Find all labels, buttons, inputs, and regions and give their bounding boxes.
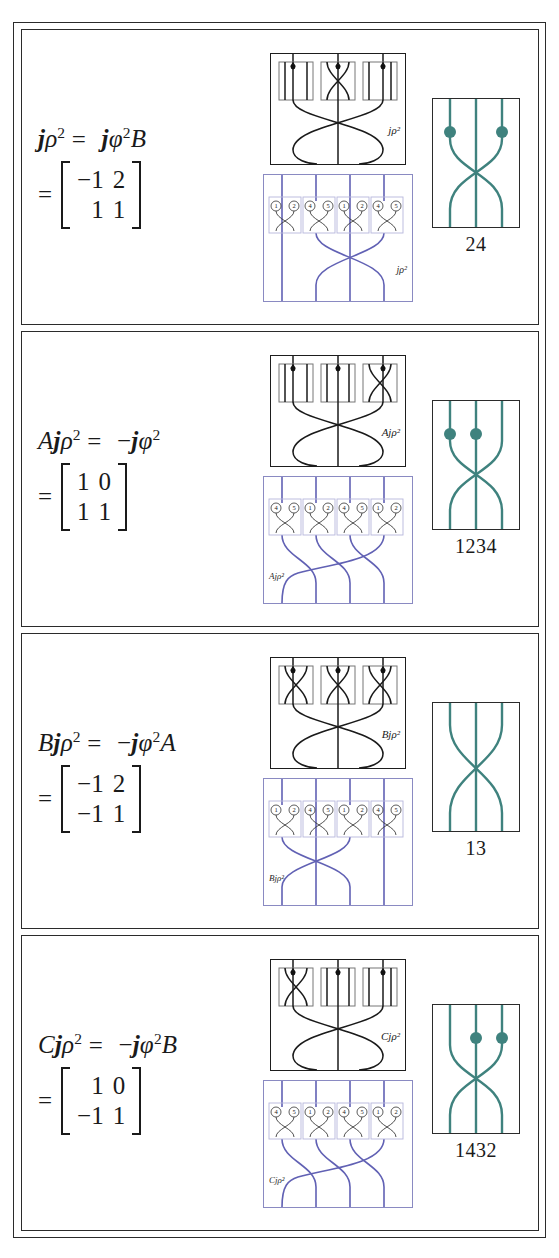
- blue-tangle-label-3: Bjρ²: [269, 873, 284, 883]
- matrix-1: = −1 2 1 1: [38, 161, 141, 229]
- matrix-cell: 1: [77, 468, 90, 496]
- panel-1: jρ2 = jφ2B = −1 2 1 1: [21, 29, 539, 325]
- black-tangle-label-4: Cjρ²: [381, 1030, 400, 1042]
- blue-tangle-label-4: Cjρ²: [269, 1175, 285, 1185]
- matrix-cell: −1: [77, 800, 104, 828]
- bead-icon: [496, 1032, 508, 1044]
- diagram-column-4: Cjρ²: [254, 959, 422, 1208]
- formula-block-1: jρ2 = jφ2B = −1 2 1 1: [22, 125, 254, 229]
- matrix-cell: 1: [113, 800, 126, 828]
- gate-number: 1: [342, 202, 345, 209]
- gate-number: 2: [360, 806, 363, 813]
- bracket-right: [118, 463, 127, 531]
- figure-page: jρ2 = jφ2B = −1 2 1 1: [0, 0, 559, 1258]
- gate-number: 5: [292, 1108, 295, 1115]
- bracket-left: [61, 463, 70, 531]
- matrix-cell: 0: [99, 468, 112, 496]
- equation-1: jρ2 = jφ2B: [38, 125, 146, 153]
- equation-4: Cjρ2 = −jφ2B: [38, 1031, 177, 1059]
- gate-number: 2: [326, 1108, 329, 1115]
- panel-4: Cjρ2 = −jφ2B = 1 0 −1 1: [21, 935, 539, 1231]
- gate-number: 5: [360, 1108, 363, 1115]
- gate-number: 2: [394, 504, 397, 511]
- bracket-right: [132, 161, 141, 229]
- gate-number: 1: [376, 1108, 379, 1115]
- matrix-cell: 1: [77, 498, 90, 526]
- gate-number: 5: [326, 806, 329, 813]
- knot-diagram-2: [432, 400, 520, 530]
- blue-tangle-diagram-2: 45 12 45 12 Ajρ²: [263, 476, 413, 604]
- black-tangle-label-2: Ajρ²: [382, 426, 400, 438]
- gate-number: 2: [326, 504, 329, 511]
- matrix-cell: 0: [113, 1072, 126, 1100]
- bead-icon: [444, 126, 456, 138]
- equation-2: Ajρ2 = −jφ2: [38, 427, 160, 455]
- knot-column-1: 24: [422, 98, 538, 256]
- knot-diagram-3: [432, 702, 520, 832]
- matrix-cell: 2: [113, 770, 126, 798]
- bracket-right: [132, 1067, 141, 1135]
- blue-tangle-diagram-1: 12 45 12 45 jρ²: [263, 174, 413, 302]
- black-tangle-diagram-3: Bjρ²: [270, 657, 406, 769]
- gate-number: 1: [342, 806, 345, 813]
- formula-block-2: Ajρ2 = −jφ2 = 1 0 1 1: [22, 427, 254, 531]
- black-tangle-diagram-1: jρ²: [270, 53, 406, 165]
- knot-caption-3: 13: [466, 837, 487, 860]
- gate-number: 1: [308, 504, 311, 511]
- black-tangle-label-3: Bjρ²: [382, 728, 400, 740]
- blue-tangle-label-1: jρ²: [396, 264, 407, 275]
- matrix-3: = −1 2 −1 1: [38, 765, 141, 833]
- gate-number: 5: [394, 202, 397, 209]
- gate-number: 5: [394, 806, 397, 813]
- knot-column-4: 1432: [422, 1004, 538, 1162]
- gate-number: 1: [274, 806, 277, 813]
- gate-number: 5: [360, 504, 363, 511]
- knot-caption-2: 1234: [455, 535, 497, 558]
- knot-diagram-4: [432, 1004, 520, 1134]
- gate-number: 2: [360, 202, 363, 209]
- matrix-cell: 1: [99, 498, 112, 526]
- gate-number: 1: [274, 202, 277, 209]
- matrix-cell: −1: [77, 1102, 104, 1130]
- gate-number: 5: [326, 202, 329, 209]
- gate-number: 5: [292, 504, 295, 511]
- matrix-cell: 1: [113, 1102, 126, 1130]
- panel-stack: jρ2 = jφ2B = −1 2 1 1: [21, 29, 539, 1231]
- bead-icon: [470, 1032, 482, 1044]
- diagram-column-3: Bjρ²: [254, 657, 422, 906]
- bracket-right: [132, 765, 141, 833]
- panel-3: Bjρ2 = −jφ2A = −1 2 −1 1: [21, 633, 539, 929]
- panel-2: Ajρ2 = −jφ2 = 1 0 1 1: [21, 331, 539, 627]
- blue-tangle-diagram-3: 12 45 12 45 Bjρ²: [263, 778, 413, 906]
- gate-number: 2: [292, 806, 295, 813]
- matrix-4: = 1 0 −1 1: [38, 1067, 141, 1135]
- diagram-column-1: jρ²: [254, 53, 422, 302]
- gate-number: 2: [394, 1108, 397, 1115]
- matrix-cell: 2: [113, 166, 126, 194]
- blue-tangle-label-2: Ajρ²: [269, 571, 284, 581]
- matrix-2: = 1 0 1 1: [38, 463, 127, 531]
- diagram-column-2: Ajρ²: [254, 355, 422, 604]
- gate-number: 1: [308, 1108, 311, 1115]
- black-tangle-label-1: jρ²: [388, 124, 400, 136]
- knot-diagram-1: [432, 98, 520, 228]
- gate-number: 1: [376, 504, 379, 511]
- matrix-cell: 1: [77, 196, 104, 224]
- bead-icon: [444, 428, 456, 440]
- knot-column-3: 13: [422, 702, 538, 860]
- bracket-left: [61, 1067, 70, 1135]
- knot-column-2: 1234: [422, 400, 538, 558]
- knot-caption-1: 24: [466, 233, 487, 256]
- gate-number: 2: [292, 202, 295, 209]
- bead-icon: [496, 126, 508, 138]
- knot-caption-4: 1432: [455, 1139, 497, 1162]
- bracket-left: [61, 765, 70, 833]
- matrix-cell: 1: [113, 196, 126, 224]
- equation-3: Bjρ2 = −jφ2A: [38, 729, 176, 757]
- bracket-left: [61, 161, 70, 229]
- formula-block-4: Cjρ2 = −jφ2B = 1 0 −1 1: [22, 1031, 254, 1135]
- formula-block-3: Bjρ2 = −jφ2A = −1 2 −1 1: [22, 729, 254, 833]
- matrix-cell: −1: [77, 770, 104, 798]
- matrix-cell: −1: [77, 166, 104, 194]
- blue-tangle-diagram-4: 45 12 45 12 Cjρ²: [263, 1080, 413, 1208]
